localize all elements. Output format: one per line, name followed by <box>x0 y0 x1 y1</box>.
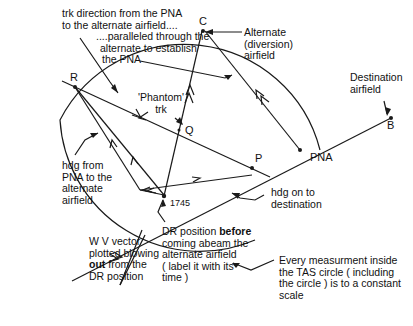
point-q <box>178 129 181 132</box>
dr-position-label: DR position before coming abeam the alte… <box>162 226 251 284</box>
label-c: C <box>199 15 207 27</box>
pna-diversion-diagram: R C Q P B PNA 1745 trk direction from th… <box>0 0 413 326</box>
paralleled-label: ....paralleled through the alternate to … <box>96 31 209 66</box>
label-b: B <box>387 119 394 131</box>
hdg-on-destination-label: hdg on to destination <box>271 187 322 210</box>
chevron-c-pna-2 <box>261 96 269 105</box>
chevron-hdg-on <box>192 177 200 182</box>
label-q: Q <box>185 124 194 136</box>
alternate-airfield-label: Alternate (diversion) airfield <box>244 27 293 62</box>
label-r: R <box>70 71 78 83</box>
phantom-trk-label: 'Phantom' trk <box>138 92 184 115</box>
hdg-from-pna-label: hdg from PNA to the alternate airfield <box>62 160 112 206</box>
label-pna: PNA <box>310 151 333 163</box>
constant-scale-note: Every measurment inside the TAS circle (… <box>279 255 401 301</box>
point-dr <box>162 194 166 198</box>
trk-direction-label: trk direction from the PNA to the altern… <box>62 8 182 31</box>
label-p: P <box>255 152 262 164</box>
label-dr-time: 1745 <box>170 198 190 208</box>
point-r <box>73 85 77 89</box>
chevron-hdg-from-2 <box>131 157 138 165</box>
destination-airfield-label: Destination airfield <box>350 72 403 95</box>
point-p <box>250 166 254 170</box>
point-pna <box>298 148 302 152</box>
chevron-phantom <box>186 85 194 95</box>
chevron-hdg-from <box>110 140 117 148</box>
wv-vector-label: W V vector plotted blowing out from the … <box>89 236 159 282</box>
